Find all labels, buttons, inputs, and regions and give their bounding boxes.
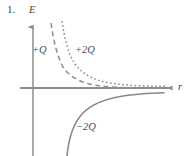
x-axis-label: r: [178, 82, 182, 93]
curve-label-minus-2q: −2Q: [76, 122, 96, 133]
diagram-canvas: [0, 0, 191, 156]
physics-field-diagram: 1. E r +Q +2Q −2Q: [0, 0, 191, 156]
curve-label-plus-q: +Q: [32, 45, 47, 56]
y-axis-label: E: [29, 5, 35, 16]
curve-plus-q: [51, 23, 165, 88]
curve-label-plus-2q: +2Q: [75, 45, 95, 56]
item-number: 1.: [7, 4, 15, 15]
